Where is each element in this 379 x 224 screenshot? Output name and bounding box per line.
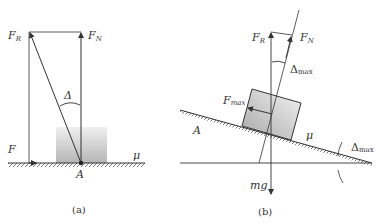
figure-b: FR FN Δmax Fmax A μ Δmax mg (b)	[180, 10, 374, 217]
label-fr-b: FR	[251, 31, 266, 45]
label-mu-b: μ	[306, 129, 313, 142]
caption-b: (b)	[258, 206, 272, 217]
angle-arc-top-b	[272, 61, 285, 63]
angle-arc-incline-lower-b	[338, 170, 343, 183]
label-mu-a: μ	[133, 149, 140, 162]
label-mg-b: mg	[250, 179, 267, 192]
label-fn-a: FN	[87, 29, 103, 43]
label-delta-a: Δ	[63, 89, 72, 102]
top-line-b	[271, 32, 292, 35]
label-point-b: A	[192, 124, 201, 137]
label-fn-b: FN	[299, 31, 315, 45]
point-a-dot	[79, 161, 83, 165]
ground-hatch-a	[8, 163, 145, 167]
normal-force-arrow-b	[286, 37, 291, 58]
figure-a: FR FN Δ F μ A (a)	[7, 29, 145, 215]
label-delta-max-top-b: Δmax	[290, 63, 313, 76]
label-fmax-b: Fmax	[222, 94, 245, 107]
angle-arc-a	[60, 103, 80, 106]
diagram-svg: FR FN Δ F μ A (a) FR FN Δmax Fmax A	[0, 0, 379, 224]
label-fr-a: FR	[7, 29, 22, 43]
caption-a: (a)	[72, 204, 86, 215]
resultant-force-arrow-a	[30, 33, 81, 163]
label-delta-max-incline-b: Δmax	[351, 141, 374, 154]
label-point-a: A	[75, 168, 84, 181]
friction-cone-figure: FR FN Δ F μ A (a) FR FN Δmax Fmax A	[0, 0, 379, 224]
label-f-a: F	[7, 143, 16, 156]
